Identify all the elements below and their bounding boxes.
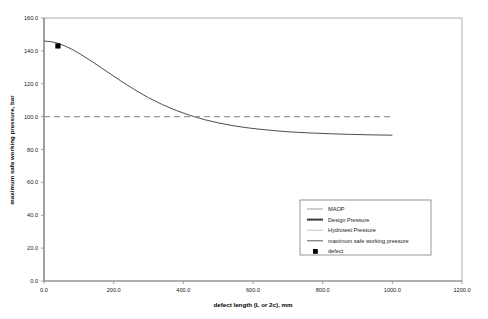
y-tick-label: 140.0: [24, 48, 38, 54]
data-point-defect: [55, 43, 60, 48]
legend-label: Hydrotest Pressure: [328, 227, 376, 233]
chart-figure: 0.020.040.060.080.0100.0120.0140.0160.0 …: [0, 0, 488, 319]
x-tick-label: 800.0: [316, 287, 330, 293]
legend-swatch-square: [313, 249, 318, 254]
y-tick-label: 20.0: [27, 245, 38, 251]
x-tick-label: 1200.0: [453, 287, 470, 293]
y-tick-label: 80.0: [27, 147, 38, 153]
legend-label: MAOP: [328, 206, 345, 212]
y-axis-ticks: 0.020.040.060.080.0100.0120.0140.0160.0: [24, 15, 44, 284]
x-tick-label: 600.0: [246, 287, 260, 293]
x-tick-label: 1000.0: [384, 287, 401, 293]
chart-legend: MAOPDesign PressureHydrotest Pressuremax…: [300, 200, 431, 255]
y-tick-label: 40.0: [27, 212, 38, 218]
y-tick-label: 100.0: [24, 114, 38, 120]
legend-label: Design Pressure: [328, 217, 369, 223]
x-tick-label: 200.0: [107, 287, 121, 293]
data-points-layer: [55, 43, 60, 48]
y-tick-label: 120.0: [24, 81, 38, 87]
y-tick-label: 60.0: [27, 179, 38, 185]
x-tick-label: 0.0: [40, 287, 48, 293]
x-axis-title: defect length (L or 2c), mm: [214, 301, 293, 308]
y-axis-title: maximum safe working pressure, bar: [8, 95, 15, 205]
x-axis-ticks: 0.0200.0400.0600.0800.01000.01200.0: [40, 281, 470, 293]
y-tick-label: 160.0: [24, 15, 38, 21]
chart-canvas: 0.020.040.060.080.0100.0120.0140.0160.0 …: [0, 0, 488, 319]
x-tick-label: 400.0: [176, 287, 190, 293]
y-tick-label: 0.0: [30, 278, 38, 284]
legend-label: defect: [328, 248, 344, 254]
legend-label: maximum safe working pressure: [328, 238, 409, 244]
